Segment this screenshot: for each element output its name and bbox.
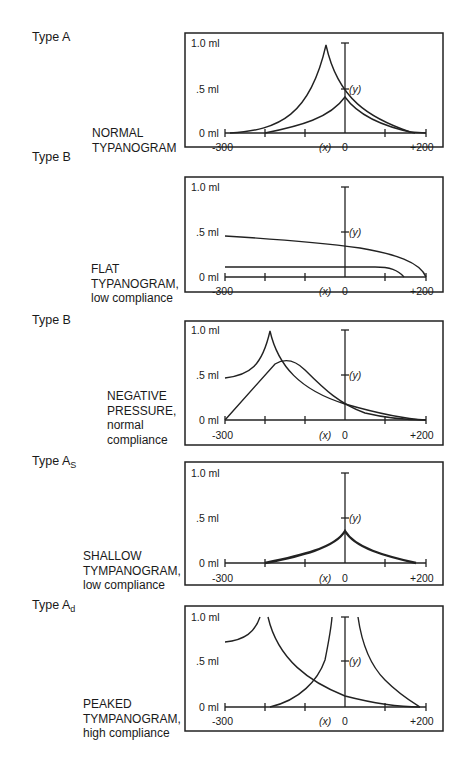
svg-text:1.0 ml: 1.0 ml <box>191 467 220 479</box>
svg-text:(x): (x) <box>319 429 331 441</box>
svg-text:0: 0 <box>342 715 348 727</box>
svg-text:+200: +200 <box>410 572 434 584</box>
svg-text:0 ml: 0 ml <box>199 127 219 139</box>
svg-text:(y): (y) <box>349 512 361 524</box>
type-label: Type Ad <box>32 598 75 614</box>
svg-text:-300: -300 <box>212 715 233 727</box>
svg-text:(x): (x) <box>319 715 331 727</box>
panel-description: SHALLOWTYMPANOGRAM,low compliance <box>83 549 181 593</box>
panel-type-b-flat: Type B <box>0 150 474 295</box>
svg-text:.5 ml: .5 ml <box>196 83 219 95</box>
svg-text:0: 0 <box>342 572 348 584</box>
svg-text:0 ml: 0 ml <box>199 701 219 713</box>
panel-type-a: Type A NORMALTYPANOGRAM 1.0 ml .5 ml 0 m… <box>0 0 474 150</box>
svg-text:1.0 ml: 1.0 ml <box>191 611 220 623</box>
type-label: Type AS <box>32 454 76 470</box>
svg-text:.5 ml: .5 ml <box>196 369 219 381</box>
svg-text:0: 0 <box>342 429 348 441</box>
svg-text:(y): (y) <box>349 369 361 381</box>
svg-text:-300: -300 <box>212 572 233 584</box>
svg-text:-300: -300 <box>212 429 233 441</box>
svg-text:0 ml: 0 ml <box>199 414 219 426</box>
svg-text:1.0 ml: 1.0 ml <box>191 37 220 49</box>
svg-text:(y): (y) <box>349 655 361 667</box>
panel-description: NEGATIVEPRESSURE,normalcompliance <box>107 389 176 447</box>
svg-text:(y): (y) <box>349 83 361 95</box>
svg-text:.5 ml: .5 ml <box>196 655 219 667</box>
svg-text:+200: +200 <box>410 429 434 441</box>
panel-description: PEAKEDTYMPANOGRAM,high compliance <box>83 697 181 741</box>
tympanogram-chart: 1.0 ml .5 ml 0 ml -300 (x) 0 +200 (y) <box>0 0 474 150</box>
type-label: Type B <box>32 313 71 327</box>
svg-text:1.0 ml: 1.0 ml <box>191 324 220 336</box>
svg-text:.5 ml: .5 ml <box>196 512 219 524</box>
svg-text:0 ml: 0 ml <box>199 557 219 569</box>
svg-text:+200: +200 <box>410 715 434 727</box>
panel-description: FLATTYPANOGRAM,low compliance <box>91 262 179 306</box>
svg-text:(x): (x) <box>319 572 331 584</box>
type-label: Type B <box>32 150 71 164</box>
